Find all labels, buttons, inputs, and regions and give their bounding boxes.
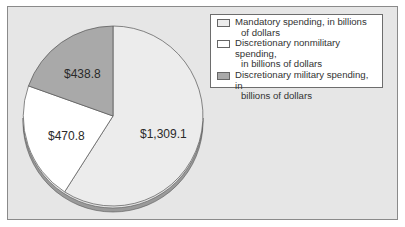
legend-swatch-mandatory <box>217 19 230 27</box>
label-military: $438.8 <box>64 67 101 81</box>
legend-swatch-military <box>217 72 230 80</box>
legend-label-cont: billions of dollars <box>235 91 378 102</box>
legend-item-nonmilitary: Discretionary nonmilitary spending, in b… <box>217 38 378 70</box>
legend-label: Discretionary military spending, in <box>235 70 378 91</box>
legend-item-mandatory: Mandatory spending, in billions of dolla… <box>217 17 378 38</box>
legend-label: Mandatory spending, in billions <box>235 17 378 28</box>
legend: Mandatory spending, in billions of dolla… <box>210 14 383 88</box>
label-nonmilitary: $470.8 <box>48 129 85 143</box>
legend-item-military: Discretionary military spending, in bill… <box>217 70 378 102</box>
legend-label: Discretionary nonmilitary spending, <box>235 38 378 59</box>
legend-swatch-nonmilitary <box>217 40 230 48</box>
label-mandatory: $1,309.1 <box>140 127 187 141</box>
